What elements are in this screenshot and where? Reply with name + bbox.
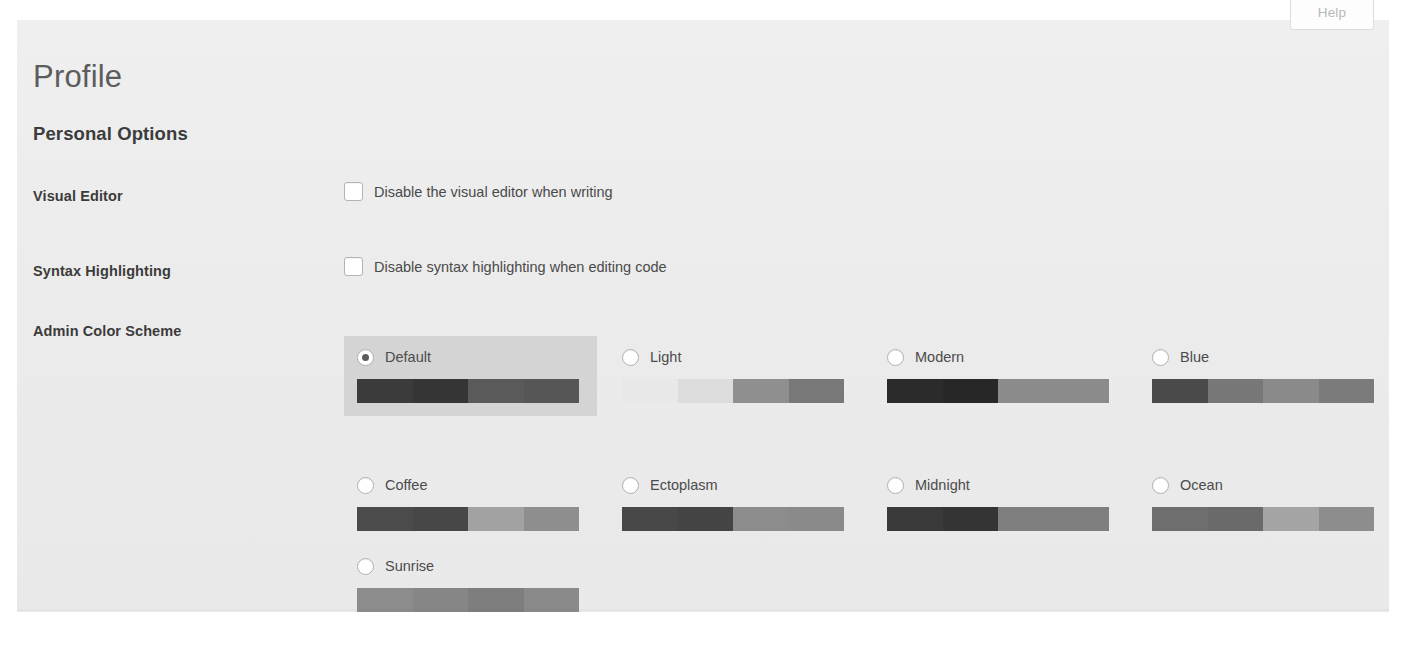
swatch-segment-2 [998,507,1054,531]
swatch-segment-1 [943,379,999,403]
swatch-segment-1 [943,507,999,531]
swatch-segment-0 [357,507,413,531]
color-scheme-header: Modern [887,347,1114,367]
color-scheme-header: Ocean [1152,475,1379,495]
radio-coffee[interactable] [357,477,374,494]
color-scheme-option-coffee[interactable]: Coffee [344,464,597,544]
swatch-segment-3 [524,588,580,612]
radio-light[interactable] [622,349,639,366]
color-scheme-option-midnight[interactable]: Midnight [874,464,1127,544]
color-scheme-label: Default [385,349,431,365]
syntax-highlighting-checkbox-row[interactable]: Disable syntax highlighting when editing… [344,257,667,276]
profile-settings-screen: Help Profile Personal Options Visual Edi… [0,0,1407,655]
swatch-segment-2 [468,507,524,531]
page-title: Profile [33,59,122,95]
syntax-highlighting-checkbox[interactable] [344,257,363,276]
color-scheme-header: Default [357,347,584,367]
color-scheme-option-blue[interactable]: Blue [1139,336,1392,416]
visual-editor-checkbox[interactable] [344,182,363,201]
radio-ocean[interactable] [1152,477,1169,494]
swatch-segment-0 [1152,379,1208,403]
color-scheme-option-ocean[interactable]: Ocean [1139,464,1392,544]
row-label-admin-color-scheme: Admin Color Scheme [33,323,181,339]
swatch-segment-1 [1208,379,1264,403]
swatch-segment-3 [1319,379,1375,403]
help-tab[interactable]: Help [1290,0,1374,30]
swatch-segment-0 [357,588,413,612]
swatch-segment-2 [733,507,789,531]
color-scheme-label: Modern [915,349,964,365]
color-scheme-option-ectoplasm[interactable]: Ectoplasm [609,464,862,544]
swatch-segment-0 [357,379,413,403]
swatch-segment-1 [1208,507,1264,531]
color-scheme-label: Coffee [385,477,427,493]
visual-editor-option-label: Disable the visual editor when writing [374,184,613,200]
swatch-segment-2 [733,379,789,403]
color-swatch-ocean [1152,507,1374,531]
visual-editor-checkbox-row[interactable]: Disable the visual editor when writing [344,182,613,201]
personal-options-heading: Personal Options [33,123,188,145]
radio-sunrise[interactable] [357,558,374,575]
swatch-segment-0 [887,379,943,403]
color-scheme-label: Sunrise [385,558,434,574]
swatch-segment-0 [622,507,678,531]
row-label-syntax-highlighting: Syntax Highlighting [33,263,171,279]
syntax-highlighting-option-label: Disable syntax highlighting when editing… [374,259,667,275]
color-scheme-label: Ectoplasm [650,477,718,493]
color-scheme-label: Ocean [1180,477,1223,493]
color-scheme-option-default[interactable]: Default [344,336,597,416]
radio-blue[interactable] [1152,349,1169,366]
swatch-segment-0 [622,379,678,403]
color-swatch-midnight [887,507,1109,531]
color-swatch-light [622,379,844,403]
color-scheme-header: Light [622,347,849,367]
swatch-segment-2 [468,379,524,403]
swatch-segment-0 [1152,507,1208,531]
swatch-segment-2 [468,588,524,612]
color-scheme-option-modern[interactable]: Modern [874,336,1127,416]
swatch-segment-1 [678,507,734,531]
swatch-segment-1 [413,588,469,612]
swatch-segment-1 [413,507,469,531]
swatch-segment-1 [413,379,469,403]
radio-default[interactable] [357,349,374,366]
color-scheme-label: Blue [1180,349,1209,365]
row-label-visual-editor: Visual Editor [33,188,123,204]
color-scheme-header: Sunrise [357,556,584,576]
swatch-segment-0 [887,507,943,531]
swatch-segment-1 [678,379,734,403]
radio-midnight[interactable] [887,477,904,494]
swatch-segment-2 [1263,379,1319,403]
color-scheme-header: Midnight [887,475,1114,495]
color-swatch-coffee [357,507,579,531]
swatch-segment-3 [789,379,845,403]
profile-panel: Profile Personal Options Visual Editor D… [17,20,1389,612]
color-swatch-sunrise [357,588,579,612]
color-scheme-label: Light [650,349,681,365]
color-swatch-default [357,379,579,403]
color-scheme-header: Blue [1152,347,1379,367]
swatch-segment-2 [1263,507,1319,531]
radio-modern[interactable] [887,349,904,366]
radio-ectoplasm[interactable] [622,477,639,494]
swatch-segment-3 [524,379,580,403]
color-swatch-modern [887,379,1109,403]
color-scheme-option-light[interactable]: Light [609,336,862,416]
color-swatch-blue [1152,379,1374,403]
swatch-segment-3 [524,507,580,531]
color-scheme-option-sunrise[interactable]: Sunrise [344,545,597,625]
swatch-segment-3 [789,507,845,531]
color-scheme-header: Ectoplasm [622,475,849,495]
swatch-segment-3 [1319,507,1375,531]
color-scheme-header: Coffee [357,475,584,495]
swatch-segment-3 [1054,379,1110,403]
swatch-segment-3 [1054,507,1110,531]
swatch-segment-2 [998,379,1054,403]
field-syntax-highlighting: Disable syntax highlighting when editing… [344,257,667,276]
color-scheme-label: Midnight [915,477,970,493]
color-swatch-ectoplasm [622,507,844,531]
field-visual-editor: Disable the visual editor when writing [344,182,613,201]
